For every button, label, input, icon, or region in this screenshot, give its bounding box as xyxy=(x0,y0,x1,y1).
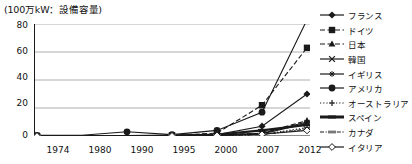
bar-dashed-marker-icon xyxy=(318,126,346,138)
legend-label: 韓国 xyxy=(346,53,365,65)
legend-item-france[interactable]: フランス xyxy=(318,8,412,23)
x-tick-label-2007: 2007 xyxy=(248,146,288,155)
legend-label: ドイツ xyxy=(346,24,374,36)
legend-item-usa[interactable]: アメリカ xyxy=(318,81,412,96)
chart-container: (100万kW：設備容量) 80 60 40 20 0 1974 1980 19… xyxy=(0,0,412,164)
plot-area xyxy=(34,24,310,136)
bar-marker-icon xyxy=(318,111,346,123)
legend-label: フランス xyxy=(346,9,383,21)
legend-item-japan[interactable]: 日本 xyxy=(318,37,412,52)
legend-label: イタリア xyxy=(346,141,383,153)
x-cross-marker-icon xyxy=(318,53,346,65)
x-tick-label-1974: 1974 xyxy=(38,146,78,155)
diamond-filled-marker-icon xyxy=(318,9,346,21)
legend-item-uk[interactable]: イギリス xyxy=(318,66,412,81)
chart-legend: フランス ドイツ 日本 韓国 イギリス アメリカ オーストラリア スペイン xyxy=(318,8,412,154)
legend-label: 日本 xyxy=(346,38,365,50)
x-tick-label-1980: 1980 xyxy=(80,146,120,155)
legend-label: アメリカ xyxy=(346,82,383,94)
legend-item-canada[interactable]: カナダ xyxy=(318,125,412,140)
legend-label: オーストラリア xyxy=(346,97,409,109)
diamond-open-marker-icon xyxy=(318,141,346,153)
chart-svg xyxy=(34,24,310,136)
y-tick-label-20: 20 xyxy=(4,99,28,108)
legend-item-germany[interactable]: ドイツ xyxy=(318,23,412,38)
legend-item-australia[interactable]: オーストラリア xyxy=(318,96,412,111)
plus-cross-marker-icon xyxy=(318,97,346,109)
chart-axis-unit-title: (100万kW：設備容量) xyxy=(4,2,102,16)
legend-item-italy[interactable]: イタリア xyxy=(318,139,412,154)
x-tick-label-1995: 1995 xyxy=(164,146,204,155)
y-tick-label-80: 80 xyxy=(4,21,28,30)
legend-item-korea[interactable]: 韓国 xyxy=(318,52,412,67)
y-tick-label-60: 60 xyxy=(4,47,28,56)
triangle-filled-marker-icon xyxy=(318,38,346,50)
legend-item-spain[interactable]: スペイン xyxy=(318,110,412,125)
legend-label: イギリス xyxy=(346,68,383,80)
y-tick-label-0: 0 xyxy=(4,131,28,140)
legend-label: スペイン xyxy=(346,111,382,123)
square-filled-marker-icon xyxy=(318,24,346,36)
y-tick-label-40: 40 xyxy=(4,73,28,82)
legend-label: カナダ xyxy=(346,126,374,138)
x-tick-label-2000: 2000 xyxy=(206,146,246,155)
x-tick-label-1990: 1990 xyxy=(122,146,162,155)
asterisk-marker-icon xyxy=(318,68,346,80)
circle-filled-marker-icon xyxy=(318,82,346,94)
